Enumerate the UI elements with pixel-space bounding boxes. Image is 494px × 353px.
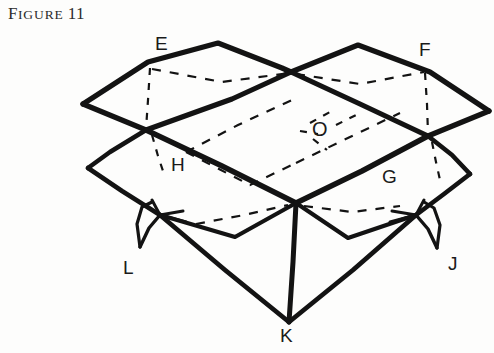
flap-e-upper-edge bbox=[83, 43, 291, 104]
vertex-label-l: L bbox=[123, 258, 134, 277]
vertex-label-e: E bbox=[155, 34, 168, 53]
bottom-point-k bbox=[160, 203, 416, 322]
flap-e-left-edge bbox=[83, 104, 146, 130]
dash-e-hidden-vertical bbox=[146, 68, 150, 129]
flap-l-inner-edge bbox=[140, 215, 160, 247]
flap-j-inner-edge bbox=[416, 215, 437, 248]
vertex-label-o: O bbox=[312, 119, 328, 139]
panel-g-right-lower-edge bbox=[416, 174, 470, 215]
rim-right-front-edge bbox=[296, 136, 428, 203]
figure-page: FIGURE11 bbox=[0, 0, 494, 353]
panel-g-upper-right-edge bbox=[428, 136, 470, 174]
flap-f-right-edge bbox=[428, 111, 489, 136]
flap-j-crease-a bbox=[392, 211, 416, 215]
center-vertical-ridge bbox=[289, 203, 296, 322]
panel-h-upper-left-edge bbox=[88, 130, 146, 168]
edge-l-to-k bbox=[160, 215, 289, 322]
vertex-label-g: G bbox=[382, 167, 397, 186]
vertex-label-f: F bbox=[419, 40, 431, 59]
dash-o-tick-down bbox=[313, 139, 327, 150]
flap-e-lower-edge bbox=[146, 72, 291, 130]
vertex-label-h: H bbox=[171, 155, 185, 174]
rim-left-front-edge bbox=[146, 130, 296, 203]
panel-h-left-lower-edge bbox=[88, 168, 160, 215]
dash-f-hidden-vertical bbox=[425, 73, 428, 134]
vertex-label-j: J bbox=[448, 254, 458, 273]
dash-g-hidden-vertical bbox=[432, 142, 440, 180]
dash-h-hidden-vertical bbox=[152, 135, 164, 174]
upper-left-flap bbox=[83, 43, 291, 130]
dash-lower-right-fold bbox=[304, 206, 400, 212]
dash-o-radial-ne bbox=[336, 112, 362, 125]
edge-j-to-k bbox=[289, 215, 416, 322]
vertex-label-k: K bbox=[280, 326, 293, 345]
